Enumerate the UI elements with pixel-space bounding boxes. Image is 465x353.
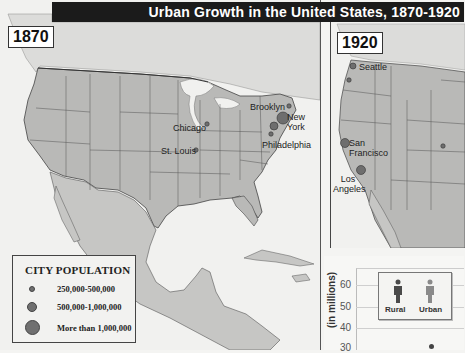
legend-item-large: More than 1,000,000: [21, 320, 131, 335]
data-point-marker: [429, 344, 434, 349]
y-tick-40: 40: [340, 322, 351, 333]
city-label-san-francisco: San Francisco: [349, 138, 389, 158]
y-tick-30: 30: [340, 342, 351, 353]
year-label-1870: 1870: [8, 26, 54, 48]
legend-label-urban: Urban: [419, 305, 442, 314]
city-dot-denver: [441, 144, 445, 148]
large-city-dot-icon: [25, 320, 40, 335]
population-chart: 60 50 40 30 (in millions) Rural Urban: [324, 256, 464, 350]
y-tick-60: 60: [340, 279, 351, 290]
legend-item-small: 250,000-500,000: [21, 284, 115, 294]
city-dot-portland: [347, 78, 351, 82]
city-population-legend: CITY POPULATION 250,000-500,000 500,000-…: [12, 255, 136, 343]
legend-item-medium: 500,000-1,000,000: [21, 302, 121, 312]
us-map-1920-graphic: [331, 20, 465, 248]
city-label-chicago: Chicago: [173, 123, 206, 133]
small-city-dot-icon: [29, 286, 35, 292]
medium-city-dot-icon: [27, 302, 37, 312]
map-1920: 1920 Seattle San Francisco Los Angeles: [330, 20, 465, 248]
city-dot-baltimore: [269, 132, 273, 136]
legend-title: CITY POPULATION: [25, 264, 130, 276]
city-dot-brooklyn: [287, 104, 291, 108]
page-title: Urban Growth in the United States, 1870-…: [52, 2, 464, 22]
map-1870: 1870 Chicago St. Louis Brooklyn New York…: [0, 0, 321, 350]
y-axis-label: (in millions): [326, 272, 337, 328]
y-tick-50: 50: [340, 301, 351, 312]
urban-person-icon: [425, 279, 435, 303]
chart-legend: Rural Urban: [378, 272, 452, 320]
city-dot-philadelphia: [270, 122, 278, 130]
city-dot-seattle: [350, 63, 356, 69]
year-label-1920: 1920: [337, 32, 383, 54]
city-label-brooklyn: Brooklyn: [250, 102, 285, 112]
city-label-seattle: Seattle: [359, 62, 387, 72]
city-label-los-angeles: Los Angeles: [333, 174, 363, 194]
gridline: [356, 328, 464, 329]
city-label-new-york: New York: [287, 112, 317, 132]
rural-person-icon: [393, 279, 403, 303]
legend-label-rural: Rural: [385, 305, 405, 314]
city-label-philadelphia: Philadelphia: [262, 140, 311, 150]
city-label-st-louis: St. Louis: [161, 146, 196, 156]
